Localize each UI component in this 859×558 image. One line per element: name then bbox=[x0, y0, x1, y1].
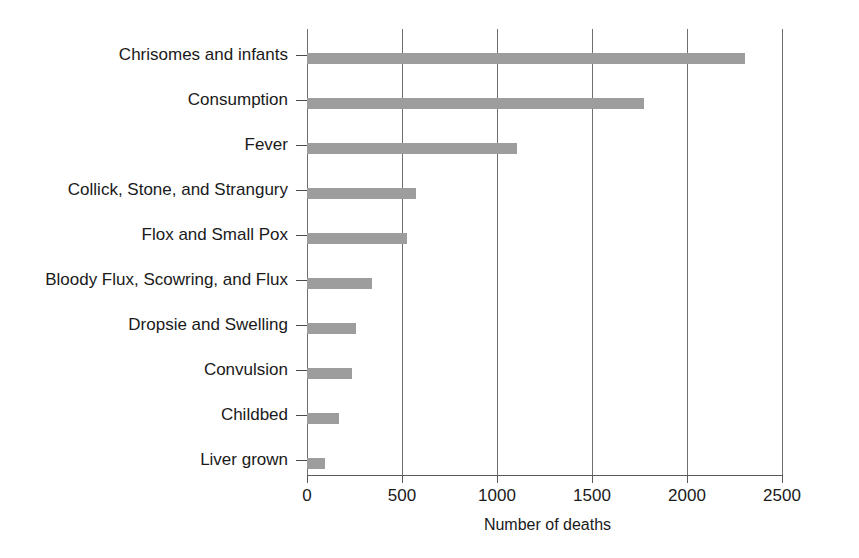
gridline-2000 bbox=[687, 29, 688, 475]
xtick-label-2500: 2500 bbox=[763, 486, 801, 506]
category-label-fever: Fever bbox=[245, 135, 288, 155]
xtick-label-2000: 2000 bbox=[668, 486, 706, 506]
bar-dropsie-and-swelling bbox=[307, 323, 356, 334]
xtick-mark-500 bbox=[402, 475, 403, 483]
gridline-1500 bbox=[592, 29, 593, 475]
xtick-label-1500: 1500 bbox=[573, 486, 611, 506]
bar-collick-stone-and-strangury bbox=[307, 188, 416, 199]
ytick-0 bbox=[296, 55, 307, 56]
ytick-2 bbox=[296, 145, 307, 146]
bar-chart: Chrisomes and infants Consumption Fever … bbox=[0, 0, 859, 558]
ytick-1 bbox=[296, 100, 307, 101]
category-label-childbed: Childbed bbox=[221, 405, 288, 425]
bar-fever bbox=[307, 143, 517, 154]
gridline-500 bbox=[402, 29, 403, 475]
xtick-label-1000: 1000 bbox=[478, 486, 516, 506]
xtick-mark-1000 bbox=[497, 475, 498, 483]
x-axis-title-text: Number of deaths bbox=[484, 516, 611, 534]
x-axis-title: Number of deaths bbox=[0, 516, 859, 534]
xtick-mark-2500 bbox=[782, 475, 783, 483]
bar-consumption bbox=[307, 98, 644, 109]
x-axis-line bbox=[307, 475, 783, 476]
category-label-bloody-flux-scowring-and-flux: Bloody Flux, Scowring, and Flux bbox=[45, 270, 288, 290]
xtick-mark-0 bbox=[307, 475, 308, 483]
bar-liver-grown bbox=[307, 458, 325, 469]
ytick-8 bbox=[296, 415, 307, 416]
xtick-mark-1500 bbox=[592, 475, 593, 483]
xtick-label-500: 500 bbox=[388, 486, 416, 506]
category-label-collick-stone-and-strangury: Collick, Stone, and Strangury bbox=[68, 180, 288, 200]
gridline-0 bbox=[307, 29, 308, 475]
category-label-dropsie-and-swelling: Dropsie and Swelling bbox=[128, 315, 288, 335]
ytick-3 bbox=[296, 190, 307, 191]
bar-chrisomes-and-infants bbox=[307, 53, 745, 64]
ytick-4 bbox=[296, 235, 307, 236]
category-label-liver-grown: Liver grown bbox=[200, 450, 288, 470]
category-label-flox-and-small-pox: Flox and Small Pox bbox=[142, 225, 288, 245]
ytick-5 bbox=[296, 280, 307, 281]
category-label-chrisomes-and-infants: Chrisomes and infants bbox=[119, 45, 288, 65]
bar-convulsion bbox=[307, 368, 352, 379]
bar-childbed bbox=[307, 413, 339, 424]
ytick-6 bbox=[296, 325, 307, 326]
bar-bloody-flux-scowring-and-flux bbox=[307, 278, 372, 289]
xtick-label-0: 0 bbox=[302, 486, 311, 506]
ytick-7 bbox=[296, 370, 307, 371]
category-label-convulsion: Convulsion bbox=[204, 360, 288, 380]
ytick-9 bbox=[296, 460, 307, 461]
gridline-1000 bbox=[497, 29, 498, 475]
category-label-consumption: Consumption bbox=[188, 90, 288, 110]
bar-flox-and-small-pox bbox=[307, 233, 407, 244]
plot-area bbox=[307, 29, 783, 475]
gridline-2500 bbox=[782, 29, 783, 475]
xtick-mark-2000 bbox=[687, 475, 688, 483]
